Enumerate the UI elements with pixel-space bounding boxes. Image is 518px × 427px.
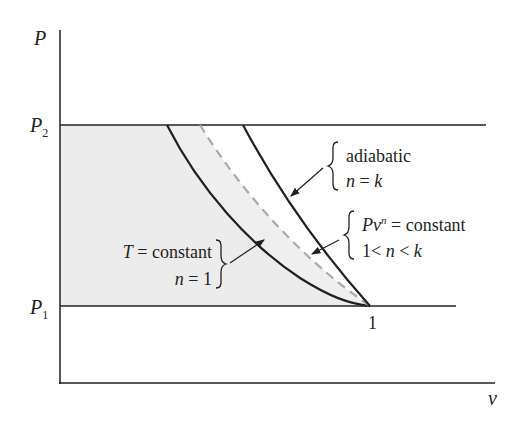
x-axis-label: v (488, 388, 497, 408)
pv-diagram-canvas (0, 0, 518, 427)
polytropic-label-line2: 1< n < k (362, 242, 422, 260)
isothermal-label-line2: n = 1 (175, 270, 212, 288)
p2-tick-label: P2 (30, 115, 48, 135)
adiabatic-label-line2: n = k (346, 172, 382, 190)
polytropic-label-line1: Pvn = constant (362, 216, 466, 234)
x-tick-1: 1 (368, 314, 377, 332)
adiabatic-label-line1: adiabatic (346, 147, 411, 165)
adiabatic-arrow (291, 168, 323, 196)
polytropic-brace (344, 211, 354, 259)
adiabatic-brace (328, 142, 338, 190)
p1-tick-label: P1 (30, 297, 48, 317)
isothermal-label-line1: T = constant (123, 243, 212, 261)
y-axis-label: P (34, 28, 46, 48)
